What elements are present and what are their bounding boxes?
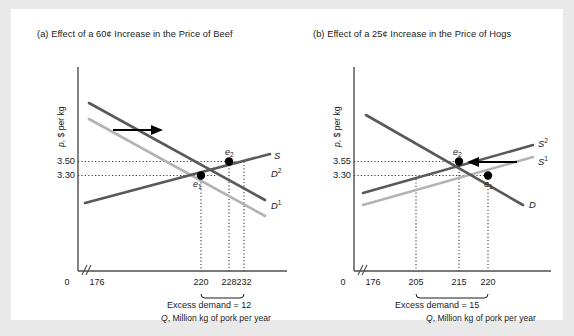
- shift-arrow-left: [467, 157, 517, 167]
- panel-b-origin: 0: [336, 277, 350, 287]
- eq-label-e1: e1: [484, 179, 493, 189]
- curve-d1: [89, 119, 265, 216]
- panel-b-y-axis-label: p, $ per kg: [332, 106, 342, 147]
- shift-arrow-right: [113, 125, 163, 135]
- curve-s2: [363, 145, 533, 193]
- eq-label-e2: e2: [453, 147, 462, 157]
- curve-label-d1: D1: [271, 200, 281, 211]
- panel-b-xtick-176: 176: [359, 277, 387, 287]
- panel-b-ytick-330: 3.30: [317, 170, 351, 180]
- panel-b-xtick-220: 220: [474, 277, 502, 287]
- curve-label-d2: D2: [271, 168, 281, 179]
- panel-b-axes: [354, 67, 551, 275]
- panel-a-y-axis-label: p, $ per kg: [56, 106, 66, 147]
- curve-d2: [89, 103, 265, 200]
- panel-a-guides: [78, 162, 244, 272]
- figure-frame: (a) Effect of a 60¢ Increase in the Pric…: [0, 0, 574, 336]
- excess-demand-bracket: [416, 294, 488, 298]
- panel-a-x-axis-label: Q, Million kg of pork per year: [161, 313, 271, 323]
- curve-label-d: D: [529, 199, 536, 210]
- excess-demand-bracket: [201, 294, 244, 298]
- panel-a-origin: 0: [60, 277, 74, 287]
- panel-a-excess-demand: Excess demand = 12: [167, 300, 251, 310]
- panel-a-xtick-232: 232: [230, 277, 258, 287]
- panel-b-x-axis-label: Q, Million kg of pork per year: [426, 313, 536, 323]
- curve-d: [366, 115, 523, 205]
- curve-label-s: S: [274, 150, 280, 161]
- panel-b: (b) Effect of a 25¢ Increase in the Pric…: [301, 9, 574, 320]
- curve-label-s2: S2: [538, 138, 548, 149]
- eq-label-e2: e2: [225, 147, 234, 157]
- panel-a-xtick-220: 220: [187, 277, 215, 287]
- equilibrium-point-e2: [455, 157, 463, 165]
- eq-label-e1: e1: [193, 179, 202, 189]
- panel-b-xtick-205: 205: [402, 277, 430, 287]
- panel-b-xtick-215: 215: [445, 277, 473, 287]
- figure-canvas: (a) Effect of a 60¢ Increase in the Pric…: [11, 9, 563, 320]
- panel-a: (a) Effect of a 60¢ Increase in the Pric…: [25, 9, 301, 320]
- panel-b-ytick-355: 3.55: [317, 156, 351, 166]
- curve-s1: [363, 157, 533, 205]
- panel-a-ytick-330: 3.30: [41, 170, 75, 180]
- panel-b-excess-demand: Excess demand = 15: [395, 300, 479, 310]
- panel-a-xtick-176: 176: [83, 277, 111, 287]
- equilibrium-point-e2: [225, 157, 233, 165]
- panel-a-ytick-350: 3.50: [41, 156, 75, 166]
- curve-label-s1: S1: [538, 156, 548, 167]
